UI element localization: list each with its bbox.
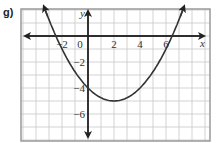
x-tick-label: 2	[111, 38, 117, 50]
curve-left-arrow	[44, 6, 48, 16]
parabola-chart: xy−20246−2−4−6	[0, 0, 216, 143]
x-tick-label: 4	[137, 38, 143, 50]
x-axis-label: x	[199, 37, 205, 49]
y-tick-label: −6	[73, 108, 85, 120]
y-axis-label: y	[79, 7, 85, 19]
curve-right-arrow	[180, 6, 184, 16]
y-tick-label: −2	[73, 56, 85, 68]
x-tick-label: 0	[77, 38, 83, 50]
